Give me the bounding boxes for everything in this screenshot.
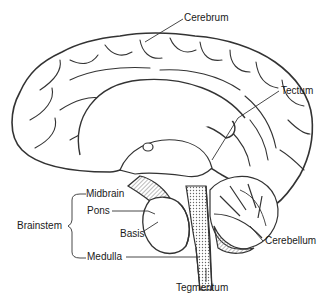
label-cerebellum: Cerebellum	[265, 236, 316, 246]
brain-illustration	[0, 0, 332, 297]
label-tegmentum: Tegmentum	[176, 283, 228, 293]
label-tectum: Tectum	[281, 86, 313, 96]
label-midbrain: Midbrain	[86, 189, 124, 199]
label-brainstem: Brainstem	[17, 221, 62, 231]
label-basis: Basis	[120, 229, 144, 239]
label-pons: Pons	[87, 206, 110, 216]
brain-diagram: Cerebrum Tectum Midbrain Pons Basis Brai…	[0, 0, 332, 297]
label-cerebrum: Cerebrum	[184, 13, 228, 23]
pons	[143, 197, 190, 253]
brainstem-column	[186, 186, 212, 290]
label-medulla: Medulla	[87, 252, 122, 262]
